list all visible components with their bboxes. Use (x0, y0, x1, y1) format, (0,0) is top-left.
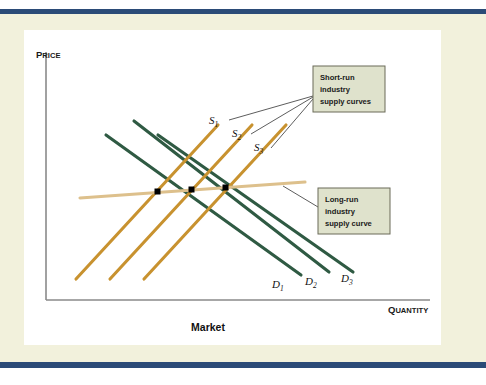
demand-labels-group: D1 D2 D3 (271, 272, 353, 293)
supply-curve-s2 (110, 125, 252, 279)
demand-label-d3: D3 (340, 272, 353, 287)
figure-root: PRICE QUANTITY (0, 0, 486, 385)
demand-label-d1: D1 (271, 278, 284, 293)
callout-short-run-line-2: industry (320, 85, 351, 94)
callout-short-run-line-1: Short-run (320, 73, 355, 82)
supply-curve-s3 (144, 125, 286, 279)
callout-short-run[interactable]: Short-run industry supply curves (313, 66, 385, 112)
demand-curve-d1 (106, 135, 301, 275)
equilibrium-point-e2 (189, 187, 195, 193)
leader-line-s1 (229, 96, 313, 120)
callout-long-run-line-3: supply curve (325, 219, 372, 228)
supply-label-s3: S3 (254, 141, 264, 156)
x-axis-label: QUANTITY (388, 304, 428, 315)
callout-long-run-line-2: industry (325, 207, 356, 216)
equilibrium-point-e3 (223, 185, 229, 191)
callout-long-run[interactable]: Long-run industry supply curve (318, 188, 390, 234)
demand-curves-group (106, 121, 353, 275)
supply-labels-group: S1 S2 S3 (209, 114, 264, 156)
leader-line-long-run (283, 186, 318, 207)
supply-label-s1: S1 (209, 114, 218, 129)
demand-label-d2: D2 (304, 275, 317, 290)
chart-svg: PRICE QUANTITY (0, 0, 486, 385)
supply-label-s2: S2 (232, 127, 242, 142)
callout-long-run-line-1: Long-run (325, 195, 359, 204)
figure-caption: Market (191, 321, 225, 333)
equilibrium-point-e1 (155, 189, 161, 195)
callout-short-run-line-3: supply curves (320, 97, 371, 106)
y-axis-label: PRICE (36, 49, 61, 60)
